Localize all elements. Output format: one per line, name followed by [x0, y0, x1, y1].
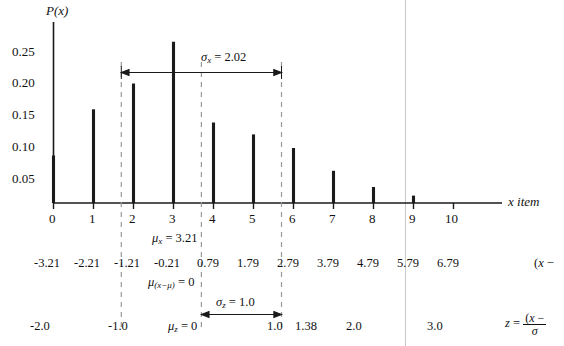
- mu-deviation-value: 0: [188, 275, 194, 289]
- z-tick-label: 3.0: [427, 320, 443, 333]
- x-tick-label: 1: [89, 212, 96, 225]
- equals-sign: =: [229, 295, 236, 309]
- deviation-row-formula: (x −: [534, 257, 554, 270]
- equals-sign: =: [165, 231, 172, 245]
- z-tick-label: 1.0: [267, 320, 283, 333]
- bar-series: [54, 42, 414, 203]
- deviation-tick-label: -0.21: [154, 257, 180, 270]
- y-tick-label: 0.25: [12, 45, 35, 58]
- x-axis-title-symbol: x: [508, 194, 514, 209]
- z-tick-label: -2.0: [30, 320, 50, 333]
- deviation-tick-label: 0.79: [197, 257, 219, 270]
- y-tick-label: 0.10: [12, 140, 35, 153]
- sigma-z-label: σz = 1.0: [216, 296, 255, 310]
- mu-x-value: 3.21: [176, 231, 198, 245]
- equals-sign: =: [214, 50, 221, 64]
- mu-subscript: x: [158, 236, 162, 246]
- deviation-tick-label: -1.21: [114, 257, 140, 270]
- deviation-tick-label: 6.79: [437, 257, 459, 270]
- y-tick-label: 0.05: [12, 172, 35, 185]
- chart-svg: [0, 0, 564, 346]
- x-tick-label: 7: [329, 212, 336, 225]
- deviation-tick-label: 2.79: [277, 257, 299, 270]
- sigma-z-value: 1.0: [239, 295, 255, 309]
- deviation-tick-label: -2.21: [74, 257, 100, 270]
- y-axis-title: P(x): [46, 4, 68, 17]
- sigma-subscript: x: [207, 55, 211, 65]
- mu-deviation-label: μ(x−μ) = 0: [148, 276, 194, 290]
- z-formula-lhs: z: [505, 316, 510, 330]
- y-tick-label: 0.15: [12, 108, 35, 121]
- sigma-x-label: σx = 2.02: [201, 51, 246, 65]
- reference-lines: [121, 62, 281, 332]
- x-tick-label: 9: [409, 212, 416, 225]
- z-formula-fraction: (x − σ: [523, 312, 546, 337]
- z-tick-label: -1.0: [108, 320, 128, 333]
- equals-sign: =: [181, 319, 188, 333]
- sigma-subscript: z: [222, 300, 226, 310]
- mu-z-label: μz = 0: [168, 320, 197, 334]
- x-tick-label: 3: [169, 212, 176, 225]
- x-tick-label: 5: [249, 212, 256, 225]
- x-axis-title: x item: [508, 195, 539, 208]
- mu-subscript: (x−μ): [154, 280, 175, 290]
- x-axis-title-text: item: [517, 194, 539, 209]
- chart-figure: P(x) 0.25 0.20 0.15 0.10 0.05 σx = 2.02 …: [0, 0, 564, 346]
- x-tick-label: 6: [289, 212, 296, 225]
- mu-x-label: μx = 3.21: [152, 232, 197, 246]
- equals-sign: =: [513, 316, 520, 330]
- z-tick-label: 1.38: [295, 320, 317, 333]
- x-tick-label: 0: [49, 212, 56, 225]
- deviation-tick-label: 5.79: [397, 257, 419, 270]
- sigma-x-value: 2.02: [224, 50, 246, 64]
- x-tick-label: 8: [369, 212, 376, 225]
- x-tick-marks: [54, 203, 454, 209]
- x-tick-label: 2: [129, 212, 136, 225]
- deviation-tick-label: 1.79: [237, 257, 259, 270]
- z-formula: z = (x − σ: [505, 312, 546, 337]
- deviation-tick-label: 4.79: [357, 257, 379, 270]
- deviation-tick-label: 3.79: [317, 257, 339, 270]
- sigma-x-arrow: [121, 66, 281, 79]
- y-tick-label: 0.20: [12, 76, 35, 89]
- sigma-z-arrow: [201, 312, 281, 318]
- mu-subscript: z: [174, 324, 178, 334]
- equals-sign: =: [178, 275, 185, 289]
- z-tick-label: 2.0: [346, 320, 362, 333]
- mu-z-value: 0: [191, 319, 197, 333]
- x-tick-label: 4: [209, 212, 216, 225]
- x-tick-label: 10: [445, 212, 458, 225]
- z-formula-denominator: σ: [523, 325, 546, 337]
- deviation-tick-label: -3.21: [34, 257, 60, 270]
